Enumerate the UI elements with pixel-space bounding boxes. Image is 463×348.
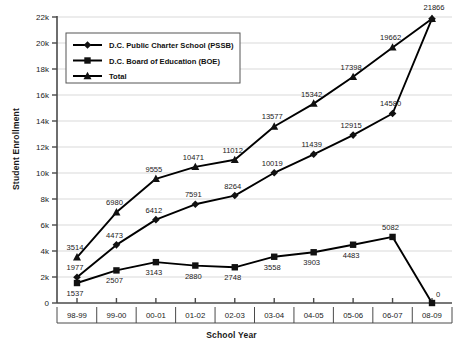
data-label: 11012 — [222, 146, 243, 155]
data-label: 2880 — [185, 272, 202, 281]
y-tick-label: 8k — [41, 195, 50, 204]
data-label: 13577 — [262, 112, 283, 121]
data-label: 3903 — [303, 258, 320, 267]
x-tick-label: 08-09 — [422, 311, 442, 320]
data-label: 21866 — [423, 3, 444, 12]
data-label: 11439 — [301, 140, 322, 149]
marker-diamond — [310, 150, 318, 158]
x-tick-label: 98-99 — [67, 311, 87, 320]
y-tick-label: 10k — [36, 169, 50, 178]
y-tick-label: 12k — [36, 143, 50, 152]
marker-square — [153, 259, 159, 265]
marker-square — [74, 280, 80, 286]
marker-square — [113, 267, 119, 273]
data-label: 17398 — [341, 63, 362, 72]
legend-label: D.C. Public Charter School (PSSB) — [109, 41, 234, 50]
x-tick-label: 00-01 — [146, 311, 166, 320]
marker-diamond — [231, 192, 239, 200]
y-tick-label: 22k — [36, 13, 50, 22]
marker-square — [232, 264, 238, 270]
series-line — [77, 237, 432, 303]
data-label: 4473 — [106, 231, 123, 240]
y-axis-ticks: 02k4k6k8k10k12k14k16k18k20k22k — [36, 13, 57, 308]
y-tick-label: 4k — [41, 247, 50, 256]
data-label: 2507 — [106, 276, 123, 285]
data-label: 3558 — [264, 263, 281, 272]
data-label: 1977 — [67, 263, 84, 272]
marker-square — [84, 57, 90, 63]
data-label: 1537 — [67, 289, 84, 298]
legend: D.C. Public Charter School (PSSB)D.C. Bo… — [66, 33, 240, 83]
data-label: 10019 — [262, 159, 283, 168]
y-tick-label: 0 — [45, 299, 50, 308]
marker-square — [310, 249, 316, 255]
marker-square — [389, 234, 395, 240]
data-label: 9555 — [145, 165, 162, 174]
marker-diamond — [389, 110, 397, 118]
marker-diamond — [349, 131, 357, 139]
x-tick-label: 01-02 — [185, 311, 205, 320]
data-label: 4483 — [343, 251, 360, 260]
marker-square — [271, 254, 277, 260]
data-label: 14580 — [380, 99, 401, 108]
marker-diamond — [192, 201, 200, 209]
data-label: 8264 — [224, 182, 241, 191]
x-tick-label: 99-00 — [106, 311, 127, 320]
y-tick-label: 16k — [36, 91, 50, 100]
x-tick-label: 05-06 — [343, 311, 363, 320]
marker-triangle — [310, 99, 318, 106]
data-label: 10471 — [183, 153, 204, 162]
y-tick-label: 14k — [36, 117, 50, 126]
data-label: 15342 — [301, 90, 322, 99]
chart-canvas: 02k4k6k8k10k12k14k16k18k20k22k98-9999-00… — [0, 0, 463, 348]
series-2 — [74, 234, 435, 306]
y-tick-label: 18k — [36, 65, 50, 74]
data-label: 3143 — [145, 268, 162, 277]
legend-label: D.C. Board of Education (BOE) — [109, 57, 220, 66]
y-tick-label: 20k — [36, 39, 50, 48]
data-label: 2748 — [224, 273, 241, 282]
marker-square — [350, 242, 356, 248]
data-label: 3514 — [67, 243, 84, 252]
marker-triangle — [270, 122, 278, 129]
x-tick-label: 02-03 — [225, 311, 245, 320]
data-label: 6412 — [145, 206, 162, 215]
data-label: 12915 — [341, 121, 362, 130]
marker-square — [429, 300, 435, 306]
data-label: 6980 — [106, 198, 123, 207]
marker-square — [192, 262, 198, 268]
y-tick-label: 6k — [41, 221, 50, 230]
data-label: 0 — [436, 290, 440, 299]
x-tick-label: 04-05 — [304, 311, 325, 320]
x-tick-label: 03-04 — [264, 311, 285, 320]
data-label: 7591 — [185, 190, 202, 199]
data-label: 19662 — [380, 33, 401, 42]
x-axis-title: School Year — [0, 330, 463, 340]
y-axis-title: Student Enrollment — [11, 89, 21, 209]
x-tick-label: 06-07 — [383, 311, 403, 320]
y-tick-label: 2k — [41, 273, 50, 282]
enrollment-line-chart: 02k4k6k8k10k12k14k16k18k20k22k98-9999-00… — [0, 0, 463, 348]
legend-label: Total — [109, 72, 127, 81]
data-label: 5082 — [382, 223, 399, 232]
